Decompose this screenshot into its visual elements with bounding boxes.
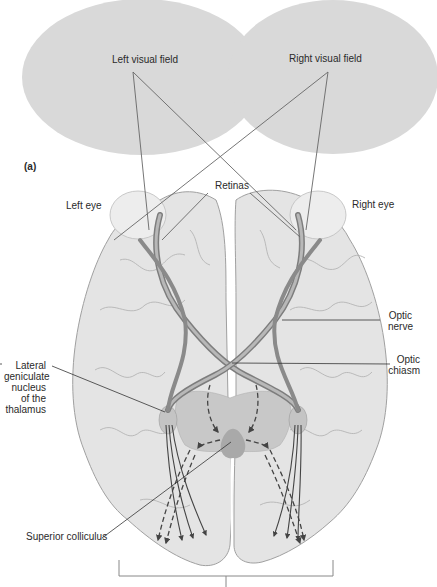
lgn-line-5: thalamus [4, 404, 46, 415]
lgn-line-4: of the [4, 393, 46, 404]
left-visual-field-label: Left visual field [112, 54, 178, 65]
midline [231, 210, 232, 555]
lgn-line-1: Lateral [4, 360, 46, 371]
visual-fields [22, 0, 437, 155]
superior-colliculus-label: Superior colliculus [26, 531, 107, 542]
right-visual-field-label: Right visual field [289, 53, 362, 64]
right-eye-label: Right eye [352, 199, 394, 210]
left-eye-label: Left eye [66, 200, 102, 211]
brain [73, 190, 388, 565]
cortex-bracket [119, 560, 333, 587]
retinas-label: Retinas [215, 180, 249, 191]
left-visual-field-ellipse [22, 0, 262, 155]
right-visual-field-ellipse [228, 0, 437, 154]
panel-label: (a) [24, 161, 36, 172]
optic-nerve-line-2: nerve [388, 321, 412, 332]
lgn-line-2: geniculate [4, 371, 46, 382]
visual-pathway-diagram: Left visual field Right visual field (a)… [0, 0, 437, 587]
optic-chiasm-line-2: chiasm [388, 365, 420, 376]
optic-chiasm-label: Optic chiasm [388, 354, 420, 376]
lgn-label: Lateral geniculate nucleus of the thalam… [4, 360, 46, 415]
lgn-line-3: nucleus [4, 382, 46, 393]
optic-chiasm-line-1: Optic [388, 354, 420, 365]
diagram-canvas [0, 0, 437, 587]
optic-nerve-label: Optic nerve [388, 310, 412, 332]
optic-nerve-line-1: Optic [388, 310, 412, 321]
